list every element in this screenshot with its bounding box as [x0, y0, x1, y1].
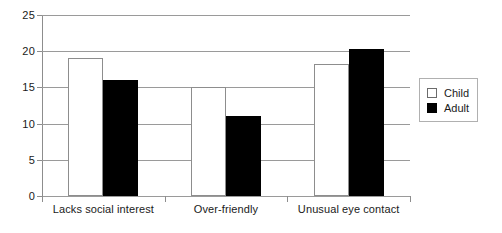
- legend-swatch-child-icon: [427, 88, 437, 98]
- category-label: Over-friendly: [194, 203, 258, 215]
- legend-label-child: Child: [444, 87, 469, 99]
- gridline: [42, 15, 410, 16]
- y-axis-tick: [37, 15, 42, 16]
- bar-child: [314, 64, 349, 196]
- legend-swatch-adult-icon: [427, 103, 437, 113]
- legend-item-child: Child: [427, 85, 469, 100]
- y-axis-tick: [37, 124, 42, 125]
- x-axis-divider: [165, 196, 166, 202]
- category-label: Lacks social interest: [53, 203, 154, 215]
- bar-child: [191, 87, 226, 196]
- chart-legend: Child Adult: [419, 78, 478, 122]
- y-axis-tick-label: 0: [29, 190, 35, 202]
- y-axis-tick-label: 20: [22, 45, 35, 57]
- y-axis-tick: [37, 87, 42, 88]
- bar-chart: 0510152025 Lacks social interestOver-fri…: [0, 0, 502, 233]
- category-label: Unusual eye contact: [298, 203, 400, 215]
- y-axis-tick: [37, 51, 42, 52]
- legend-item-adult: Adult: [427, 100, 469, 115]
- plot-area: 0510152025: [42, 15, 410, 196]
- y-axis-tick-label: 15: [22, 81, 35, 93]
- x-axis-divider: [410, 196, 411, 202]
- y-axis-tick-label: 25: [22, 9, 35, 21]
- bar-adult: [226, 116, 261, 196]
- bar-adult: [103, 80, 138, 196]
- x-axis-divider: [287, 196, 288, 202]
- y-axis-tick-label: 5: [29, 154, 35, 166]
- bar-child: [68, 58, 103, 196]
- gridline: [42, 196, 410, 197]
- legend-label-adult: Adult: [444, 102, 469, 114]
- bar-adult: [349, 49, 384, 196]
- x-axis-divider: [42, 196, 43, 202]
- y-axis-tick-label: 10: [22, 118, 35, 130]
- y-axis-tick: [37, 160, 42, 161]
